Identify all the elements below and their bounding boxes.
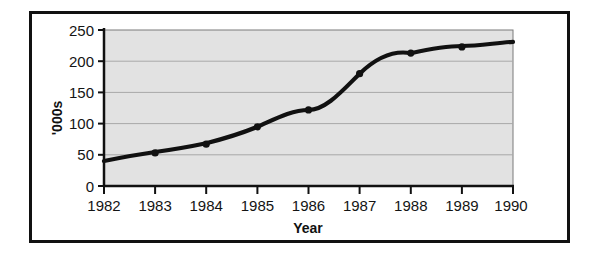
x-tick-label-1990: 1990 (494, 197, 527, 214)
data-point-1984 (203, 141, 210, 148)
x-tick-label-1988: 1988 (394, 197, 427, 214)
x-tick-label-1983: 1983 (138, 197, 171, 214)
y-tick-label-0: 0 (86, 178, 94, 195)
y-tick-label-250: 250 (69, 22, 94, 39)
y-tick-label-100: 100 (69, 115, 94, 132)
x-tick-label-1986: 1986 (292, 197, 325, 214)
line-chart: 250 200 150 100 50 0 1982 1983 1984 1985… (0, 0, 593, 258)
data-point-1986 (305, 106, 312, 113)
data-point-1987 (356, 70, 363, 77)
x-tick-label-1987: 1987 (343, 197, 376, 214)
x-tick-label-1985: 1985 (241, 197, 274, 214)
screenshot-root: 250 200 150 100 50 0 1982 1983 1984 1985… (0, 0, 593, 258)
data-point-1983 (152, 149, 159, 156)
x-axis-title: Year (293, 220, 323, 236)
x-tick-label-1982: 1982 (87, 197, 120, 214)
x-tick-label-1984: 1984 (190, 197, 223, 214)
data-point-1988 (407, 50, 414, 57)
x-tick-label-1989: 1989 (445, 197, 478, 214)
data-point-1989 (458, 43, 465, 50)
y-tick-label-150: 150 (69, 84, 94, 101)
y-axis-title: '000s (49, 101, 65, 136)
data-point-1985 (254, 123, 261, 130)
y-tick-label-50: 50 (77, 146, 94, 163)
y-tick-label-200: 200 (69, 53, 94, 70)
